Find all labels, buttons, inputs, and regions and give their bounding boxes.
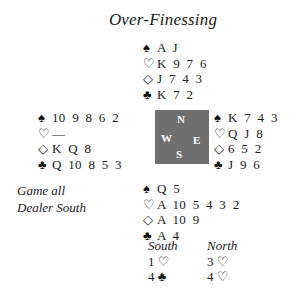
- auction-south-header: South: [148, 238, 178, 254]
- auction-bid: 1 ♡: [148, 254, 178, 270]
- compass-north: N: [177, 113, 185, 125]
- east-hand: ♠ K 7 4 3 ♡ Q J 8 ◇ 6 5 2 ♣ J 9 6: [214, 110, 278, 172]
- compass-south: S: [176, 148, 182, 160]
- spade-icon: ♠: [143, 40, 157, 56]
- west-spades: ♠ 10 9 8 6 2: [38, 110, 122, 126]
- spade-icon: ♠: [38, 110, 52, 126]
- dealer-label: Dealer South: [17, 199, 86, 216]
- auction-bid: 3 ♡: [207, 254, 237, 270]
- diamond-icon: ◇: [38, 141, 52, 157]
- heart-icon: ♡: [143, 56, 157, 72]
- north-hearts: ♡ K 9 7 6: [143, 56, 207, 72]
- auction-north-header: North: [207, 238, 237, 254]
- west-diamonds: ◇ K Q 8: [38, 141, 122, 157]
- vulnerability-label: Game all: [17, 182, 86, 199]
- east-spades: ♠ K 7 4 3: [214, 110, 278, 126]
- compass-west: W: [161, 132, 172, 144]
- compass-box: N W E S: [155, 110, 209, 164]
- east-hearts: ♡ Q J 8: [214, 126, 278, 142]
- south-hearts: ♡ A 10 5 4 3 2: [143, 197, 240, 213]
- north-clubs: ♣ K 7 2: [143, 87, 207, 103]
- south-spades: ♠ Q 5: [143, 181, 240, 197]
- auction-south-column: South 1 ♡ 4 ♣: [148, 238, 178, 285]
- auction-bid: 4 ♣: [148, 269, 178, 285]
- north-spades: ♠ A J: [143, 40, 207, 56]
- north-hand: ♠ A J ♡ K 9 7 6 ◇ J 7 4 3 ♣ K 7 2: [143, 40, 207, 102]
- east-clubs: ♣ J 9 6: [214, 157, 278, 173]
- club-icon: ♣: [38, 157, 52, 173]
- spade-icon: ♠: [214, 110, 228, 126]
- auction-bid: 4 ♡: [207, 269, 237, 285]
- deal-info: Game all Dealer South: [17, 182, 86, 216]
- spade-icon: ♠: [143, 181, 157, 197]
- diagram-title: Over-Finessing: [0, 10, 296, 30]
- diamond-icon: ◇: [214, 141, 228, 157]
- west-clubs: ♣ Q 10 8 5 3: [38, 157, 122, 173]
- west-hand: ♠ 10 9 8 6 2 ♡ — ◇ K Q 8 ♣ Q 10 8 5 3: [38, 110, 122, 172]
- south-diamonds: ◇ A 10 9: [143, 212, 240, 228]
- heart-icon: ♡: [38, 126, 52, 142]
- heart-icon: ♡: [214, 126, 228, 142]
- club-icon: ♣: [143, 87, 157, 103]
- west-hearts: ♡ —: [38, 126, 122, 142]
- north-diamonds: ◇ J 7 4 3: [143, 71, 207, 87]
- diamond-icon: ◇: [143, 212, 157, 228]
- heart-icon: ♡: [143, 197, 157, 213]
- diamond-icon: ◇: [143, 71, 157, 87]
- east-diamonds: ◇ 6 5 2: [214, 141, 278, 157]
- compass-east: E: [193, 134, 200, 146]
- south-hand: ♠ Q 5 ♡ A 10 5 4 3 2 ◇ A 10 9 ♣ A 4: [143, 181, 240, 243]
- auction-north-column: North 3 ♡ 4 ♡: [207, 238, 237, 285]
- club-icon: ♣: [214, 157, 228, 173]
